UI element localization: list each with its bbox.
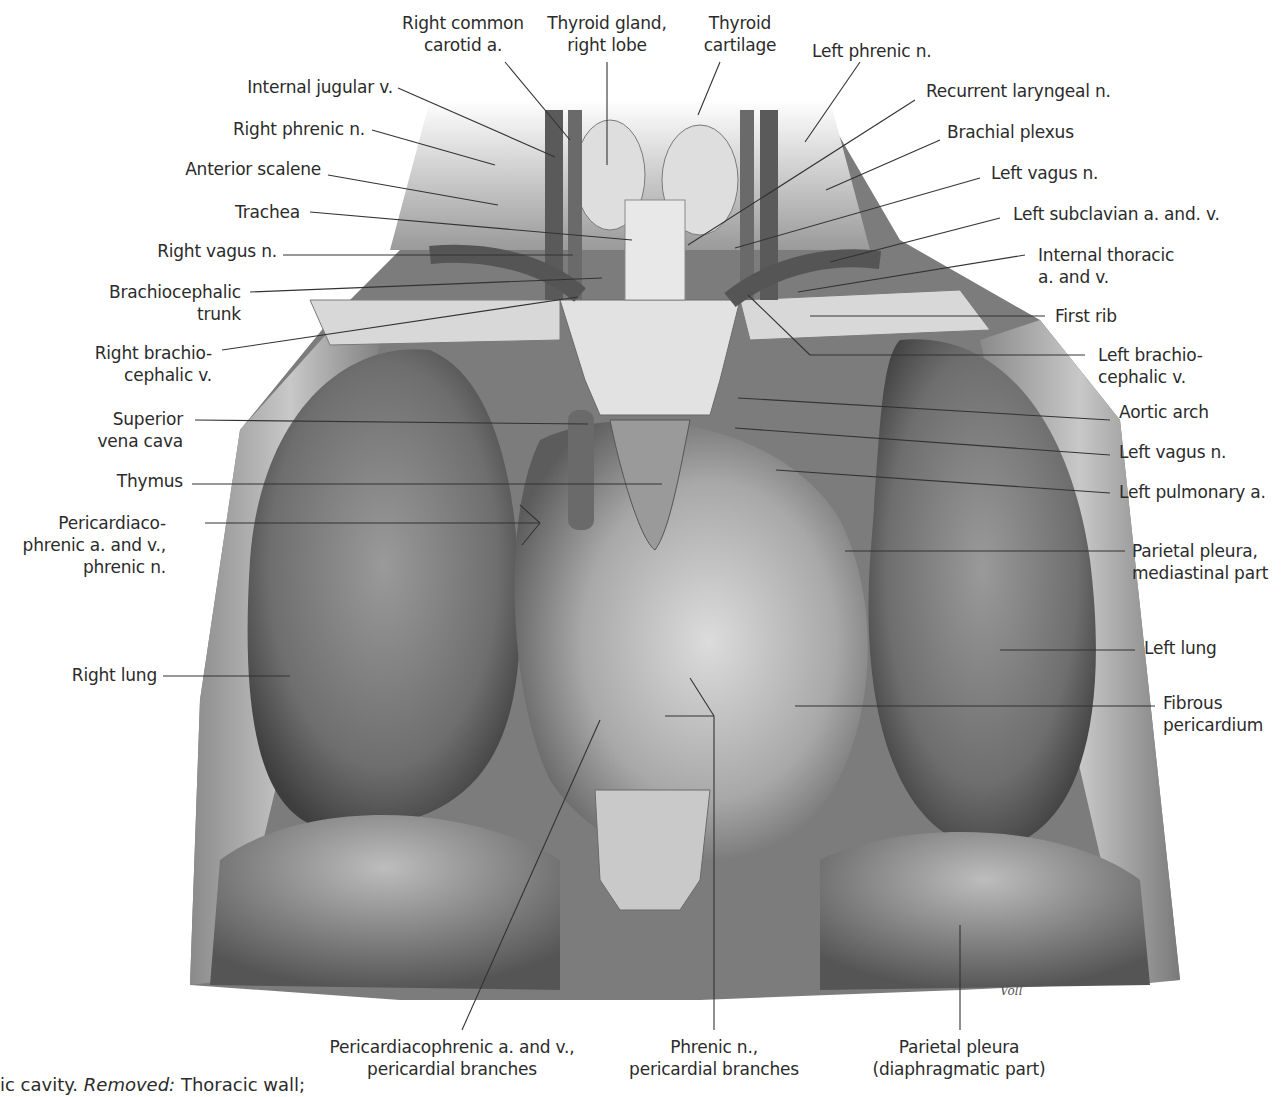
label-line: Brachiocephalic bbox=[109, 281, 241, 303]
figure-caption: ic cavity. Removed: Thoracic wall; bbox=[0, 1074, 305, 1095]
label-right-phrenic-n: Right phrenic n. bbox=[233, 118, 365, 140]
label-line: Right common bbox=[398, 12, 528, 34]
label-line: phrenic n. bbox=[23, 556, 166, 578]
label-anterior-scalene: Anterior scalene bbox=[185, 158, 321, 180]
label-line: right lobe bbox=[543, 34, 671, 56]
label-line: Internal thoracic bbox=[1038, 244, 1174, 266]
label-brachiocephalic-trunk: Brachiocephalic trunk bbox=[109, 281, 241, 325]
label-line: Left brachio- bbox=[1098, 344, 1203, 366]
label-line: Parietal pleura bbox=[866, 1036, 1052, 1058]
label-line: Internal jugular v. bbox=[247, 76, 393, 98]
label-line: Brachial plexus bbox=[947, 121, 1074, 143]
caption-removed-text: Thoracic wall; bbox=[181, 1074, 305, 1095]
label-left-pulmonary-a: Left pulmonary a. bbox=[1119, 481, 1266, 503]
label-phrenic-n-branches: Phrenic n., pericardial branches bbox=[622, 1036, 806, 1080]
label-line: Left subclavian a. and. v. bbox=[1013, 203, 1220, 225]
label-left-vagus-n-lower: Left vagus n. bbox=[1119, 441, 1226, 463]
label-thymus: Thymus bbox=[117, 470, 183, 492]
label-line: Parietal pleura, bbox=[1132, 540, 1268, 562]
label-thyroid-gland-right-lobe: Thyroid gland, right lobe bbox=[543, 12, 671, 56]
label-line: (diaphragmatic part) bbox=[866, 1058, 1052, 1080]
label-left-lung: Left lung bbox=[1144, 637, 1217, 659]
right-clavicle bbox=[310, 300, 560, 345]
label-pericardiacophrenic-branches: Pericardiacophrenic a. and v., pericardi… bbox=[312, 1036, 592, 1080]
label-right-lung: Right lung bbox=[72, 664, 157, 686]
anatomy-figure: Voll bbox=[0, 0, 1283, 1097]
label-parietal-pleura-mediastinal: Parietal pleura, mediastinal part bbox=[1132, 540, 1268, 584]
label-line: Trachea bbox=[235, 201, 300, 223]
label-line: Right lung bbox=[72, 664, 157, 686]
label-fibrous-pericardium: Fibrous pericardium bbox=[1163, 692, 1263, 736]
label-line: Left vagus n. bbox=[1119, 441, 1226, 463]
label-line: vena cava bbox=[97, 430, 183, 452]
svc-shape bbox=[568, 410, 594, 530]
label-pericardiacophrenic: Pericardiaco- phrenic a. and v., phrenic… bbox=[23, 512, 166, 578]
label-left-phrenic-n: Left phrenic n. bbox=[812, 40, 931, 62]
label-right-brachiocephalic-v: Right brachio- cephalic v. bbox=[95, 342, 212, 386]
label-right-vagus-n: Right vagus n. bbox=[157, 240, 277, 262]
label-line: Right phrenic n. bbox=[233, 118, 365, 140]
label-line: Superior bbox=[97, 408, 183, 430]
label-line: a. and v. bbox=[1038, 266, 1174, 288]
label-line: pericardial branches bbox=[622, 1058, 806, 1080]
label-right-common-carotid: Right common carotid a. bbox=[398, 12, 528, 56]
label-line: Anterior scalene bbox=[185, 158, 321, 180]
label-line: Left pulmonary a. bbox=[1119, 481, 1266, 503]
label-line: trunk bbox=[109, 303, 241, 325]
label-line: First rib bbox=[1055, 305, 1117, 327]
label-thyroid-cartilage: Thyroid cartilage bbox=[695, 12, 785, 56]
label-trachea: Trachea bbox=[235, 201, 300, 223]
trachea-shape bbox=[625, 200, 685, 300]
label-line: mediastinal part bbox=[1132, 562, 1268, 584]
label-left-vagus-n-upper: Left vagus n. bbox=[991, 162, 1098, 184]
label-line: Phrenic n., bbox=[622, 1036, 806, 1058]
label-superior-vena-cava: Superior vena cava bbox=[97, 408, 183, 452]
artist-signature: Voll bbox=[1000, 984, 1023, 998]
label-line: phrenic a. and v., bbox=[23, 534, 166, 556]
label-left-brachiocephalic-v: Left brachio- cephalic v. bbox=[1098, 344, 1203, 388]
label-line: Pericardiacophrenic a. and v., bbox=[312, 1036, 592, 1058]
label-parietal-pleura-diaphragmatic: Parietal pleura (diaphragmatic part) bbox=[866, 1036, 1052, 1080]
label-line: carotid a. bbox=[398, 34, 528, 56]
label-line: Pericardiaco- bbox=[23, 512, 166, 534]
label-line: Aortic arch bbox=[1119, 401, 1209, 423]
label-line: pericardium bbox=[1163, 714, 1263, 736]
diaphragm-right bbox=[210, 815, 560, 990]
label-line: Thymus bbox=[117, 470, 183, 492]
label-line: Right brachio- bbox=[95, 342, 212, 364]
label-internal-thoracic: Internal thoracic a. and v. bbox=[1038, 244, 1174, 288]
label-line: Recurrent laryngeal n. bbox=[926, 80, 1111, 102]
label-line: cephalic v. bbox=[1098, 366, 1203, 388]
label-line: Left vagus n. bbox=[991, 162, 1098, 184]
label-line: Thyroid bbox=[695, 12, 785, 34]
caption-removed-label: Removed: bbox=[84, 1074, 175, 1095]
label-line: Right vagus n. bbox=[157, 240, 277, 262]
label-line: Fibrous bbox=[1163, 692, 1263, 714]
label-line: Left phrenic n. bbox=[812, 40, 931, 62]
left-carotid-shape bbox=[740, 110, 754, 300]
label-line: cephalic v. bbox=[95, 364, 212, 386]
right-carotid-shape bbox=[568, 110, 582, 300]
caption-prefix: ic cavity. bbox=[0, 1074, 78, 1095]
label-brachial-plexus: Brachial plexus bbox=[947, 121, 1074, 143]
label-line: Left lung bbox=[1144, 637, 1217, 659]
label-line: cartilage bbox=[695, 34, 785, 56]
label-first-rib: First rib bbox=[1055, 305, 1117, 327]
label-aortic-arch: Aortic arch bbox=[1119, 401, 1209, 423]
label-left-subclavian: Left subclavian a. and. v. bbox=[1013, 203, 1220, 225]
label-line: Thyroid gland, bbox=[543, 12, 671, 34]
label-internal-jugular-v: Internal jugular v. bbox=[247, 76, 393, 98]
label-recurrent-laryngeal-n: Recurrent laryngeal n. bbox=[926, 80, 1111, 102]
label-line: pericardial branches bbox=[312, 1058, 592, 1080]
